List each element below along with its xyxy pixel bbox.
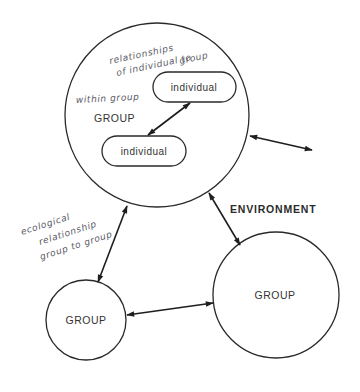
arrow-individual-to-individual bbox=[148, 103, 190, 135]
handwritten-ecological-note: ecological relationship group to group bbox=[20, 212, 114, 262]
individual-top-node: individual bbox=[153, 72, 236, 102]
ecology-diagram: GROUP individual individual GROUP GROUP … bbox=[0, 0, 360, 392]
arrow-group-to-large-group bbox=[209, 193, 240, 245]
arrow-group-to-small-group bbox=[98, 206, 127, 282]
note-within-group: within group bbox=[76, 92, 140, 105]
arrow-group-to-outside bbox=[250, 136, 312, 150]
group-small-label: GROUP bbox=[65, 314, 106, 326]
group-large-node: GROUP bbox=[213, 232, 339, 358]
arrow-small-to-large-group bbox=[127, 303, 213, 315]
group-large-label: GROUP bbox=[254, 289, 295, 301]
individual-bottom-node: individual bbox=[102, 136, 186, 166]
note-relationships-line3: group bbox=[178, 50, 209, 66]
individual-bottom-label: individual bbox=[121, 146, 168, 157]
group-small-node: GROUP bbox=[46, 280, 126, 360]
individual-top-label: individual bbox=[171, 82, 218, 93]
environment-label: ENVIRONMENT bbox=[230, 203, 316, 215]
group-main-label: GROUP bbox=[94, 112, 135, 124]
